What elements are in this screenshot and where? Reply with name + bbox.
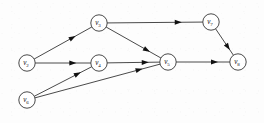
node-v3[interactable]: v3 (91, 15, 107, 31)
edge-v6-to-v4 (34, 67, 91, 97)
edge-v4-to-v5 (107, 62, 160, 63)
node-v2[interactable]: v2 (19, 55, 35, 71)
edge-v7-to-v8 (216, 29, 234, 55)
node-v5[interactable]: v5 (160, 54, 176, 70)
node-v6[interactable]: v6 (19, 92, 35, 108)
node-v8[interactable]: v8 (230, 54, 246, 70)
graph-figure: v2v3v4v5v6v7v8 (0, 0, 264, 123)
edge-v3-to-v7 (107, 22, 203, 23)
node-v4[interactable]: v4 (91, 55, 107, 71)
arrowhead-v3-to-v7 (175, 20, 182, 25)
edge-v2-to-v3 (34, 27, 92, 59)
arrowhead-v5-to-v8 (211, 60, 218, 65)
edges-layer (34, 20, 233, 98)
arrowhead-v3-to-v5 (143, 46, 150, 52)
arrowhead-v7-to-v8 (224, 43, 230, 50)
arrowhead-v6-to-v5 (135, 68, 142, 73)
graph-canvas: v2v3v4v5v6v7v8 (0, 0, 264, 123)
arrowhead-v4-to-v5 (142, 60, 149, 65)
arrowhead-v2-to-v3 (68, 36, 75, 42)
arrowhead-v2-to-v4 (69, 61, 76, 66)
edge-v3-to-v5 (106, 27, 161, 58)
arrowhead-v6-to-v4 (73, 72, 80, 77)
node-v7[interactable]: v7 (203, 14, 219, 30)
